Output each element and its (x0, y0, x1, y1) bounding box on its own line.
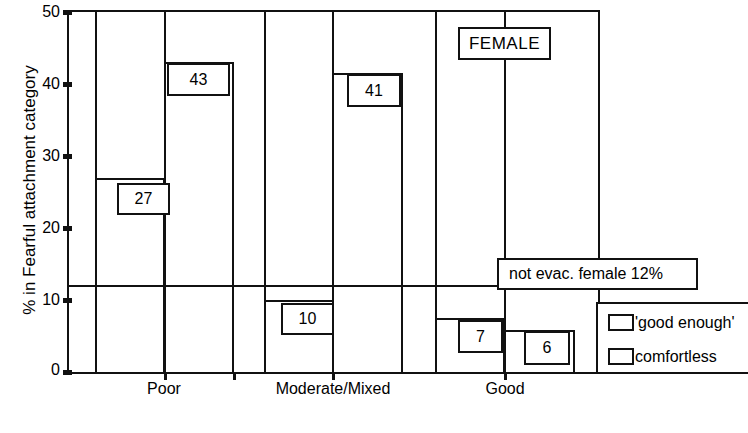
y-tick-label-30: 30 (34, 148, 60, 164)
y-tick-50 (63, 10, 72, 15)
value-label-moderate-good-enough: 10 (281, 303, 334, 335)
chart-title-box: FEMALE (458, 27, 551, 60)
y-tick-label-10: 10 (34, 292, 60, 308)
legend-label-good-enough: 'good enough' (635, 315, 735, 331)
y-axis-title: % in Fearful attachment category (20, 10, 40, 370)
legend-item-good-enough: 'good enough' (608, 314, 735, 331)
x-axis-label-moderate: Moderate/Mixed (276, 380, 391, 398)
y-tick-label-20: 20 (34, 220, 60, 236)
y-tick-30 (63, 154, 72, 159)
legend: 'good enough' comfortless (596, 302, 748, 374)
y-tick-0 (63, 370, 72, 375)
bar-poor-comfortless (164, 62, 234, 374)
value-label-moderate-comfortless: 41 (347, 74, 401, 107)
x-axis-label-good: Good (485, 380, 524, 398)
y-axis-line (67, 10, 69, 374)
chart-canvas: % in Fearful attachment category 50 40 3… (0, 0, 748, 433)
value-label-good-good-enough: 7 (458, 320, 503, 353)
y-tick-20 (63, 226, 72, 231)
value-label-good-comfortless: 6 (524, 331, 570, 365)
x-axis-label-poor: Poor (147, 380, 181, 398)
y-tick-label-50: 50 (34, 4, 60, 20)
legend-label-comfortless: comfortless (635, 349, 717, 365)
y-tick-40 (63, 82, 72, 87)
value-label-poor-good-enough: 27 (117, 183, 170, 215)
x-tick-poor-end (233, 374, 236, 380)
y-tick-label-40: 40 (34, 76, 60, 92)
y-tick-10 (63, 298, 72, 303)
legend-swatch-icon-comfortless (608, 348, 634, 365)
bar-moderate-comfortless (332, 73, 403, 374)
legend-item-comfortless: comfortless (608, 348, 717, 365)
legend-swatch-icon-good-enough (608, 314, 634, 331)
reference-line-label: not evac. female 12% (497, 258, 698, 290)
y-tick-label-0: 0 (34, 362, 60, 378)
value-label-poor-comfortless: 43 (167, 63, 230, 96)
